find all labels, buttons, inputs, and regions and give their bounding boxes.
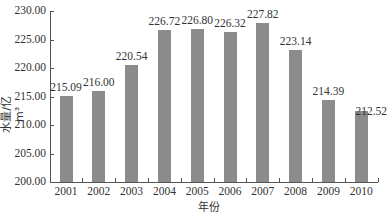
y-tick (50, 154, 54, 155)
x-tick-label: 2002 (82, 185, 116, 197)
x-tick-label: 2006 (213, 185, 247, 197)
x-tick (312, 178, 313, 182)
x-tick (246, 178, 247, 182)
x-tick (148, 178, 149, 182)
x-tick (345, 178, 346, 182)
y-tick-label: 220.00 (2, 61, 46, 73)
x-axis-label: 年份 (198, 198, 220, 214)
bar-2009 (322, 100, 335, 182)
x-tick-label: 2004 (147, 185, 181, 197)
bar-value-label: 227.82 (241, 8, 285, 20)
bar-value-label: 216.00 (77, 76, 121, 88)
bar-2002 (92, 91, 105, 182)
bar-2004 (158, 30, 171, 182)
bar-value-label: 212.52 (349, 105, 391, 117)
bar-2003 (125, 65, 138, 182)
y-tick-label: 200.00 (2, 175, 46, 187)
y-tick-label: 225.00 (2, 33, 46, 45)
x-tick-label: 2001 (49, 185, 83, 197)
y-tick (50, 97, 54, 98)
y-tick (50, 68, 54, 69)
bar-2001 (60, 96, 73, 182)
bar-2006 (224, 32, 237, 182)
x-tick (115, 178, 116, 182)
y-tick (50, 182, 54, 183)
bar-value-label: 223.14 (274, 35, 318, 47)
x-tick-label: 2009 (311, 185, 345, 197)
x-tick (279, 178, 280, 182)
y-tick (50, 40, 54, 41)
bar-2008 (289, 50, 302, 182)
x-tick-label: 2008 (279, 185, 313, 197)
x-tick (82, 178, 83, 182)
y-tick (50, 11, 54, 12)
bar-value-label: 220.54 (110, 50, 154, 62)
x-axis (50, 182, 378, 183)
y-tick-label: 210.00 (2, 118, 46, 130)
y-tick-label: 205.00 (2, 147, 46, 159)
x-tick-label: 2010 (344, 185, 378, 197)
x-tick (181, 178, 182, 182)
x-tick-label: 2005 (180, 185, 214, 197)
x-tick-label: 2007 (246, 185, 280, 197)
y-tick (50, 125, 54, 126)
x-tick (378, 178, 379, 182)
bar-value-label: 214.39 (306, 85, 350, 97)
bar-2010 (355, 111, 368, 182)
y-tick-label: 215.00 (2, 90, 46, 102)
x-tick (214, 178, 215, 182)
y-tick-label: 230.00 (2, 4, 46, 16)
bar-2005 (191, 29, 204, 182)
bar-2007 (256, 23, 269, 182)
x-tick-label: 2003 (115, 185, 149, 197)
